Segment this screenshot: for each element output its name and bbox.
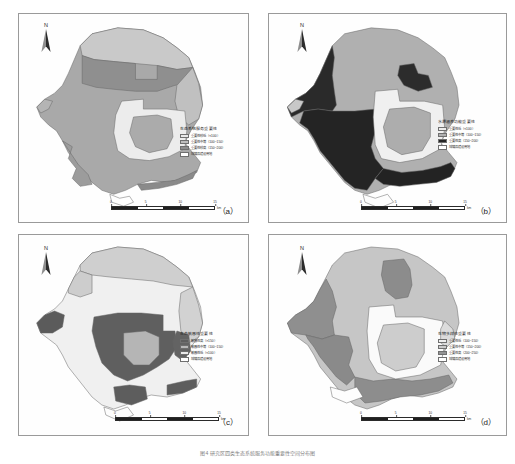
scalebar-unit-b: km [467,206,471,210]
region-a-class2-core [130,115,173,153]
legend-swatch-d-2 [438,345,447,350]
region-b-class2-core [383,107,430,155]
legend-swatch-c-3 [180,351,189,356]
scalebar-bar-a [111,206,215,210]
legend-item-b-3: 重要性高（150~200） [438,139,500,144]
legend-label-b-3: 重要性高（150~200） [449,139,480,144]
legend-c: 生态敏感性重要性 敏感性高（>150） 敏感性中等（100~150） 敏感性低（… [180,331,242,363]
legend-label-a-4: 城镇及建设用地 [191,152,212,157]
scalebar-segment [388,418,414,420]
legend-label-b-1: 重要性低（<100） [449,127,474,132]
scalebar-b: 0 5 10 15 km [361,200,465,210]
legend-label-c-1: 敏感性高（>150） [191,339,216,344]
scalebar-segment [167,418,193,420]
scalebar-tick-d-1: 5 [395,411,397,415]
region-c-class2-northwest [68,271,92,297]
legend-label-a-3: 重要性较高（150~200） [191,146,225,151]
scalebar-segment [193,418,219,420]
region-c-class1-south [114,385,148,405]
legend-item-b-2: 重要性中等（100~150） [438,133,500,138]
scalebar-tick-a-2: 10 [178,200,182,204]
scalebar-tick-b-2: 10 [428,200,432,204]
scalebar-tick-c-2: 10 [182,411,186,415]
legend-a: 生态系统服务重要性 重要性较低（<100） 重要性中等（100~150） 重要性… [180,126,242,158]
legend-item-c-2: 敏感性中等（100~150） [180,345,242,350]
legend-swatch-b-1 [438,127,447,132]
map-panel-a: N 生态系统服务重要性 重要性较低（<100） 重要性中等（100~150） [0,0,257,232]
legend-item-d-1: 重要性低（100~150） [438,339,500,344]
region-d-class2-core [377,323,424,371]
scalebar-tick-d-3: 15 [463,411,467,415]
scalebar-tick-c-1: 5 [149,411,151,415]
legend-swatch-d-1 [438,339,447,344]
scalebar-tick-b-3: 15 [463,200,467,204]
legend-label-d-4: 城镇及建设用地 [449,357,470,362]
scalebar-tick-c-0: 0 [114,411,116,415]
scalebar-segment [142,418,168,420]
scalebar-bar-c [115,417,219,421]
legend-item-d-4: 城镇及建设用地 [438,357,500,362]
north-arrow-b: N [293,22,311,56]
legend-title-b: 水源涵养功能重要性 [438,119,501,124]
scalebar-segment [439,418,465,420]
legend-swatch-a-2 [180,140,189,145]
legend-swatch-c-1 [180,339,189,344]
legend-item-c-4: 城镇及建设用地 [180,357,242,362]
map-panel-c: N 生态敏感性重要性 敏感性高（>150） 敏感性中等（100~150） [0,232,257,448]
legend-swatch-a-3 [180,146,189,151]
map-panel-b: N 水源涵养功能重要性 重要性低（<100） 重要性中等（100~150） [257,0,515,232]
scalebar-tick-b-0: 0 [360,200,362,204]
legend-item-d-3: 重要性高（200~250） [438,351,500,356]
legend-swatch-b-2 [438,133,447,138]
figure-grid: N 生态系统服务重要性 重要性较低（<100） 重要性中等（100~150） [0,0,515,448]
legend-item-a-1: 重要性较低（<100） [180,134,242,139]
north-arrow-icon-b [294,28,310,54]
legend-item-d-2: 重要性中等（150~200） [438,345,500,350]
scalebar-tick-d-0: 0 [360,411,362,415]
legend-label-a-1: 重要性较低（<100） [191,134,219,139]
legend-item-c-3: 敏感性低（<100） [180,351,242,356]
legend-swatch-c-2 [180,345,189,350]
legend-label-c-2: 敏感性中等（100~150） [191,345,225,350]
legend-label-c-4: 城镇及建设用地 [191,357,212,362]
region-d-class3-west [287,279,336,339]
legend-item-a-3: 重要性较高（150~200） [180,146,242,151]
scalebar-bar-b [361,206,465,210]
scalebar-tick-d-2: 10 [428,411,432,415]
north-arrow-icon-c [38,251,54,277]
legend-label-b-4: 城镇及建设用地 [449,145,470,150]
legend-swatch-b-4 [438,145,447,150]
legend-label-d-2: 重要性中等（150~200） [449,345,483,350]
scalebar-ticks-c: 0 5 10 15 [115,411,219,417]
north-arrow-d: N [293,245,311,279]
panel-label-d: （d） [476,416,496,427]
panel-label-a: （a） [218,205,238,216]
scalebar-c: 0 5 10 15 km [115,411,219,421]
scalebar-segment [362,207,388,209]
scalebar-segment [138,207,164,209]
north-arrow-c: N [37,245,55,279]
legend-item-a-2: 重要性中等（100~150） [180,140,242,145]
scalebar-segment [362,418,388,420]
legend-swatch-a-4 [180,152,189,157]
scalebar-segment [116,418,142,420]
scalebar-segment [388,207,414,209]
legend-item-b-4: 城镇及建设用地 [438,145,500,150]
legend-label-b-2: 重要性中等（100~150） [449,133,483,138]
scalebar-segment [439,207,465,209]
legend-title-d: 生物多样性重要性 [438,331,501,336]
north-arrow-icon-d [294,251,310,277]
legend-d: 生物多样性重要性 重要性低（100~150） 重要性中等（150~200） 重要… [438,331,500,363]
legend-swatch-c-4 [180,357,189,362]
legend-swatch-d-3 [438,351,447,356]
legend-swatch-d-4 [438,357,447,362]
region-c-class2-core [124,331,160,365]
scalebar-unit-d: km [467,417,471,421]
scalebar-segment [413,207,439,209]
legend-label-d-1: 重要性低（100~150） [449,339,480,344]
panel-frame-c: N 生态敏感性重要性 敏感性高（>150） 敏感性中等（100~150） [18,234,249,436]
scalebar-segment [112,207,138,209]
panel-frame-b: N 水源涵养功能重要性 重要性低（<100） 重要性中等（100~150） [268,13,507,223]
north-arrow-a: N [37,22,55,56]
north-arrow-icon-a [38,28,54,54]
